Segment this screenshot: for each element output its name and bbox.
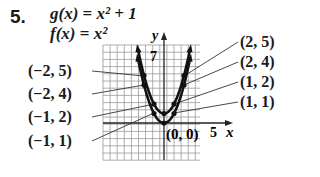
x-axis-label: x [225, 124, 234, 140]
label-neg1-1: (−1, 1) [28, 132, 72, 150]
label-neg2-5: (−2, 5) [28, 62, 72, 80]
label-1-2: (1, 2) [240, 73, 275, 91]
y-tick-label: 7 [150, 49, 157, 64]
y-axis-arrow-icon [161, 32, 167, 40]
label-1-1: (1, 1) [240, 93, 275, 111]
label-neg1-2: (−1, 2) [28, 108, 72, 126]
y-axis-label: y [150, 28, 159, 43]
origin-label: (0, 0) [166, 126, 199, 143]
x-tick-label: 5 [210, 125, 217, 140]
label-2-4: (2, 4) [240, 53, 275, 71]
label-neg2-4: (−2, 4) [28, 85, 72, 103]
label-2-5: (2, 5) [240, 33, 275, 51]
